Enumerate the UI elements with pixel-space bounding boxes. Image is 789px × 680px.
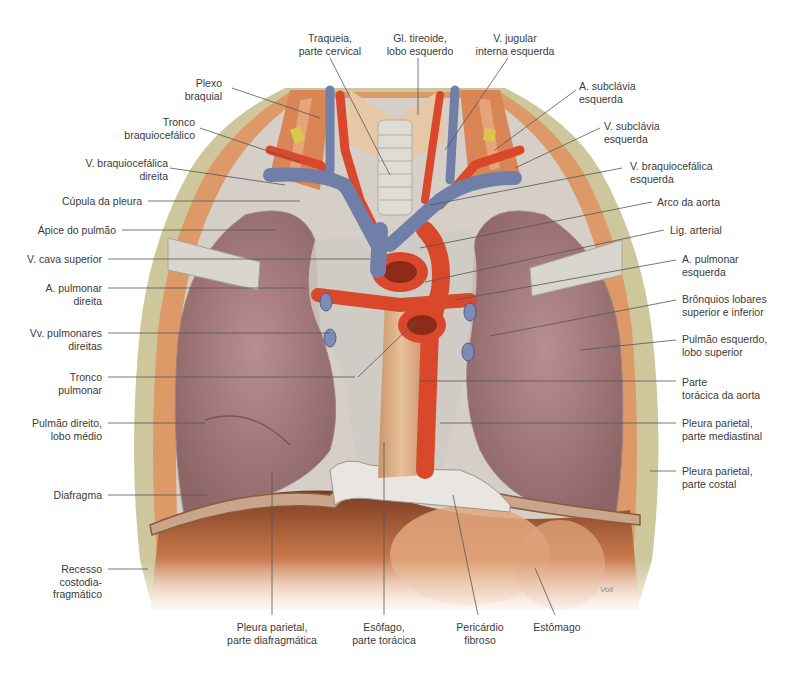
label-bronquios-lobares: Brônquios lobares superior e inferior (682, 293, 787, 318)
label-pulmao-direito-lobo-medio: Pulmão direito, lobo médio (0, 417, 102, 442)
label-diafragma: Diafragma (0, 489, 102, 502)
label-jugular: V. jugular interna esquerda (470, 32, 560, 57)
label-traqueia: Traqueia, parte cervical (290, 32, 370, 57)
label-lig-arterial: Lig. arterial (670, 224, 780, 237)
label-apice-pulmao: Ápice do pulmão (10, 224, 116, 237)
label-plexo-braquial: Plexo braquial (130, 77, 222, 102)
label-a-pulmonar-direita: A. pulmonar direita (0, 282, 102, 307)
label-esofago: Esôfago, parte torácica (344, 621, 424, 646)
label-parte-toracica-aorta: Parte torácica da aorta (682, 376, 787, 401)
label-tireoide: Gl. tireoide, lobo esquerdo (380, 32, 460, 57)
label-v-cava-superior: V. cava superior (0, 253, 102, 266)
label-pleura-diafragmatica: Pleura parietal, parte diafragmática (212, 621, 332, 646)
label-pericardio-fibroso: Pericárdio fibroso (448, 621, 512, 646)
label-pleura-mediastinal: Pleura parietal, parte mediastinal (682, 417, 787, 442)
anatomy-figure: Voll (0, 0, 789, 680)
label-v-braquiocefalica-direita: V. braquiocefálica direita (50, 157, 168, 182)
label-tronco-pulmonar: Tronco pulmonar (0, 371, 102, 396)
label-pulmao-esquerdo-lobo-superior: Pulmão esquerdo, lobo superior (682, 333, 787, 358)
label-pleura-costal: Pleura parietal, parte costal (682, 465, 787, 490)
label-a-subclavia-esquerda: A. subclávia esquerda (579, 80, 699, 105)
label-tronco-braquiocefalico: Tronco braquiocefálico (100, 116, 195, 141)
label-arco-aorta: Arco da aorta (657, 196, 777, 209)
label-recesso-costodiafragmatico: Recesso costodia- fragmático (0, 563, 102, 601)
label-v-subclavia-esquerda: V. subclávia esquerda (604, 120, 724, 145)
artist-signature: Voll (600, 585, 613, 594)
label-cupula-pleura: Cúpula da pleura (20, 195, 142, 208)
label-v-braquiocefalica-esquerda: V. braquiocefálica esquerda (630, 160, 760, 185)
label-vv-pulmonares-direitas: Vv. pulmonares direitas (0, 327, 102, 352)
label-a-pulmonar-esquerda: A. pulmonar esquerda (682, 253, 787, 278)
label-estomago: Estômago (525, 621, 589, 634)
